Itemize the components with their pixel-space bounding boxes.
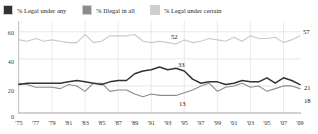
series-lines bbox=[19, 34, 300, 96]
chart-container: % Legal under any % Illegal in all % Leg… bbox=[0, 0, 318, 134]
x-tick-label: '75 bbox=[15, 119, 22, 126]
y-tick-label-0: 0 bbox=[0, 113, 14, 120]
legend-item-illegal-in-all: % Illegal in all bbox=[82, 5, 135, 15]
x-tick-label: '87 bbox=[115, 119, 122, 126]
x-tick-label: '99 bbox=[214, 119, 221, 126]
legend-label: % Legal under any bbox=[17, 7, 66, 14]
annotation-18: 18 bbox=[304, 97, 311, 104]
x-tick-label: '85 bbox=[98, 119, 105, 126]
annotation-57: 57 bbox=[303, 28, 310, 35]
legend-item-legal-under-any: % Legal under any bbox=[3, 5, 66, 15]
legend-swatch-dark-icon bbox=[3, 5, 13, 15]
x-tick-label: '03 bbox=[247, 119, 254, 126]
legend-label: % Legal under certain bbox=[164, 7, 222, 14]
x-tick-label: '83 bbox=[81, 119, 88, 126]
y-tick-label-40: 40 bbox=[0, 58, 14, 65]
x-tick-label: '09 bbox=[296, 119, 303, 126]
x-tick-label: '07 bbox=[280, 119, 287, 126]
x-tick-label: '79 bbox=[48, 119, 55, 126]
y-tick-label-60: 60 bbox=[0, 29, 14, 36]
plot-area bbox=[18, 21, 301, 117]
y-tick-label-20: 20 bbox=[0, 87, 14, 94]
legend-item-legal-under-certain: % Legal under certain bbox=[150, 5, 222, 15]
x-tick-label: '95 bbox=[181, 119, 188, 126]
annotation-33: 33 bbox=[178, 61, 185, 68]
series-line bbox=[19, 83, 300, 97]
x-tick-label: '77 bbox=[32, 119, 39, 126]
annotation-21: 21 bbox=[304, 84, 311, 91]
x-tick-label: '93 bbox=[164, 119, 171, 126]
series-line bbox=[19, 34, 300, 43]
legend-swatch-mid-icon bbox=[82, 5, 92, 15]
x-tick-label: '01 bbox=[230, 119, 237, 126]
series-line bbox=[19, 67, 300, 85]
annotation-13: 13 bbox=[179, 100, 186, 107]
legend-swatch-light-icon bbox=[150, 5, 160, 15]
annotation-52: 52 bbox=[171, 33, 178, 40]
x-tick-label: '81 bbox=[65, 119, 72, 126]
legend-label: % Illegal in all bbox=[96, 7, 135, 14]
chart-legend: % Legal under any % Illegal in all % Leg… bbox=[0, 0, 318, 20]
x-tick-label: '05 bbox=[263, 119, 270, 126]
x-tick-label: '91 bbox=[148, 119, 155, 126]
x-axis: '75'77'79'81'83'85'87'89'91'93'95'97'99'… bbox=[18, 118, 301, 132]
x-tick-label: '89 bbox=[131, 119, 138, 126]
x-tick-label: '97 bbox=[197, 119, 204, 126]
plot-svg bbox=[18, 21, 301, 117]
